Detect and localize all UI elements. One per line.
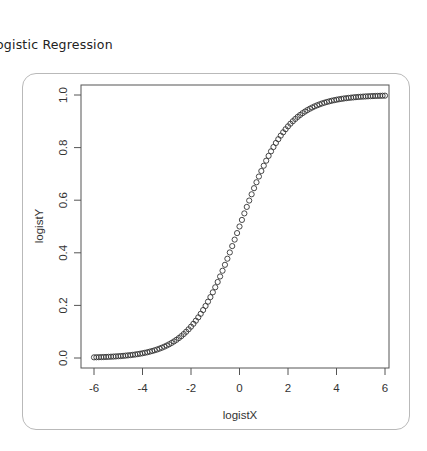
y-axis: 0.00.20.40.60.81.0 [57,87,81,366]
data-point [247,198,252,203]
y-axis-label: logistY [33,208,45,243]
data-point [261,163,266,168]
logistic-chart: -6-4-20246 0.00.20.40.60.81.0 logistX lo… [0,0,427,451]
y-tick-label: 0.6 [57,192,69,208]
y-tick-label: 0.8 [57,140,69,156]
data-point [249,192,254,197]
data-point [230,243,235,248]
x-tick-label: -2 [186,382,196,394]
data-point [215,279,220,284]
x-tick-label: 4 [333,382,340,394]
data-point [213,285,218,290]
data-point [273,140,278,145]
data-point [234,230,239,235]
x-tick-label: 2 [285,382,291,394]
x-tick-label: 0 [236,382,242,394]
data-point [244,204,249,209]
data-point [220,268,225,273]
data-point [259,168,264,173]
x-tick-label: -4 [137,382,148,394]
data-point [227,250,232,255]
data-point [222,262,227,267]
data-point [254,180,259,185]
data-point [256,174,261,179]
x-axis-label: logistX [223,409,258,421]
data-point [210,290,215,295]
data-point [251,186,256,191]
data-point [218,274,223,279]
data-point [242,211,247,216]
x-tick-label: -6 [89,382,99,394]
x-axis: -6-4-20246 [89,368,388,394]
y-tick-label: 0.4 [57,244,69,261]
y-tick-label: 1.0 [57,87,69,103]
y-tick-label: 0.0 [57,350,69,366]
x-tick-label: 6 [382,382,388,394]
y-tick-label: 0.2 [57,297,69,313]
plot-frame [81,85,389,368]
data-point [225,256,230,261]
data-point [232,237,237,242]
data-point [237,224,242,229]
data-points [91,93,387,360]
data-point [239,217,244,222]
